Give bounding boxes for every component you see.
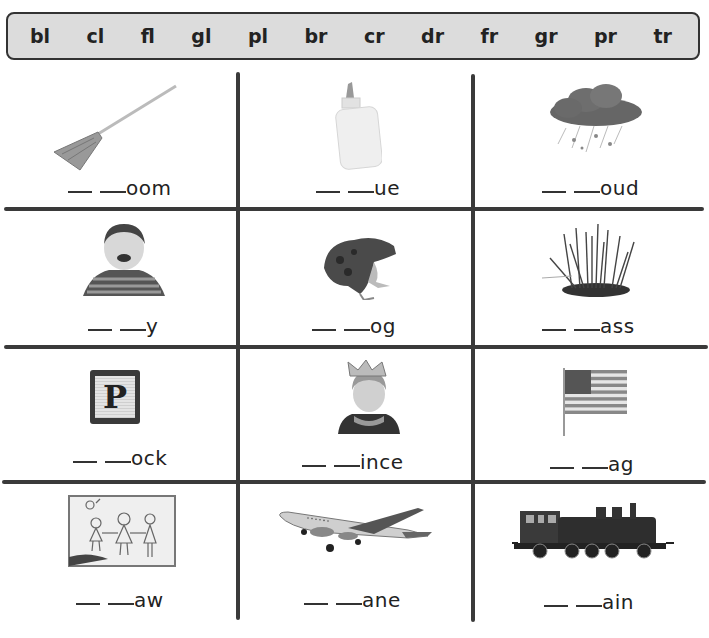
blank-line-1[interactable] — [542, 190, 566, 193]
blank-line-1[interactable] — [302, 464, 326, 467]
blank-line-1[interactable] — [304, 602, 328, 605]
blend-pl: pl — [248, 25, 268, 47]
blend-cl: cl — [87, 25, 105, 47]
grid-divider-horizontal-3 — [2, 480, 706, 484]
blank-line-1[interactable] — [316, 190, 340, 193]
frog-icon — [320, 230, 398, 300]
flag-icon — [562, 368, 630, 436]
blank-line-2[interactable] — [334, 464, 360, 467]
blank-line-2[interactable] — [336, 602, 362, 605]
blank-line-2[interactable] — [105, 460, 131, 463]
word-blank-oud[interactable]: oud — [542, 176, 639, 200]
word-blank-y[interactable]: y — [88, 314, 158, 338]
word-blank-ag[interactable]: ag — [550, 452, 634, 476]
grass-icon — [542, 222, 642, 298]
blend-gl: gl — [191, 25, 211, 47]
blank-line-2[interactable] — [576, 604, 602, 607]
blend-bl: bl — [30, 25, 50, 47]
blank-line-2[interactable] — [120, 328, 146, 331]
blank-line-1[interactable] — [68, 190, 92, 193]
word-blank-ock[interactable]: ock — [73, 446, 167, 470]
blank-line-1[interactable] — [550, 466, 574, 469]
blend-br: br — [305, 25, 328, 47]
block-letter: P — [103, 381, 127, 413]
blend-fl: fl — [141, 25, 155, 47]
blank-line-1[interactable] — [544, 604, 568, 607]
grid-divider-horizontal-2 — [4, 345, 708, 349]
letter-block-icon: P — [90, 370, 140, 424]
word-blank-ass[interactable]: ass — [542, 314, 635, 338]
train-icon — [512, 503, 674, 559]
blend-cr: cr — [364, 25, 385, 47]
blank-line-1[interactable] — [73, 460, 97, 463]
blend-gr: gr — [535, 25, 558, 47]
blank-line-2[interactable] — [574, 190, 600, 193]
airplane-icon — [278, 506, 434, 558]
grid-divider-horizontal-1 — [4, 207, 704, 211]
blank-line-2[interactable] — [574, 328, 600, 331]
blank-line-2[interactable] — [100, 190, 126, 193]
word-blank-aw[interactable]: aw — [76, 588, 164, 612]
rain-cloud-icon — [546, 82, 646, 158]
word-blank-ain[interactable]: ain — [544, 590, 634, 614]
prince-child-icon — [338, 360, 400, 434]
drawing-icon — [68, 495, 176, 567]
blend-dr: dr — [421, 25, 444, 47]
blend-fr: fr — [480, 25, 498, 47]
crying-child-icon — [83, 222, 165, 296]
word-blank-ue[interactable]: ue — [316, 176, 400, 200]
broom-icon — [50, 82, 180, 172]
word-blank-ane[interactable]: ane — [304, 588, 401, 612]
blank-line-2[interactable] — [344, 328, 370, 331]
blank-line-1[interactable] — [76, 602, 100, 605]
blend-word-bank: bl cl fl gl pl br cr dr fr gr pr tr — [6, 12, 700, 60]
blank-line-1[interactable] — [312, 328, 336, 331]
blank-line-1[interactable] — [542, 328, 566, 331]
glue-bottle-icon — [330, 80, 382, 172]
word-blank-og[interactable]: og — [312, 314, 396, 338]
blank-line-1[interactable] — [88, 328, 112, 331]
blank-line-2[interactable] — [582, 466, 608, 469]
word-blank-oom[interactable]: oom — [68, 176, 171, 200]
blank-line-2[interactable] — [348, 190, 374, 193]
word-blank-ince[interactable]: ince — [302, 450, 404, 474]
blank-line-2[interactable] — [108, 602, 134, 605]
blend-pr: pr — [594, 25, 617, 47]
blend-tr: tr — [653, 25, 671, 47]
